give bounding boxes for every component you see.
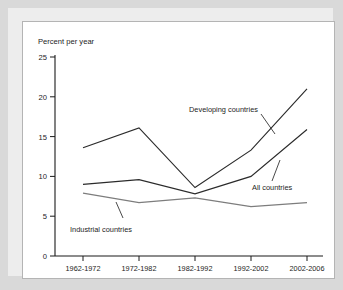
y-tick-label-0: 0 (43, 252, 47, 261)
x-tick-label-3: 1992-2002 (234, 264, 269, 273)
y-axis-title: Percent per year (38, 37, 95, 46)
y-tick-label-25: 25 (39, 53, 47, 62)
chart-panel: Percent per year 25 20 15 10 5 0 (22, 21, 335, 279)
y-tick-label-5: 5 (43, 212, 47, 221)
x-tick-label-2: 1982-1992 (178, 264, 213, 273)
annotation-all-countries: All countries (252, 183, 293, 192)
y-tick-label-20: 20 (39, 93, 47, 102)
leader-line-industrial (116, 202, 123, 218)
annotation-industrial-countries: Industrial countries (70, 225, 132, 234)
series-line-industrial (83, 193, 307, 207)
series-line-developing (83, 89, 307, 188)
line-chart: Percent per year 25 20 15 10 5 0 (23, 22, 334, 278)
x-tick-label-0: 1962-1972 (66, 264, 101, 273)
y-tick-label-15: 15 (39, 133, 47, 142)
leader-line-all-countries (272, 160, 280, 181)
y-tick-label-10: 10 (39, 172, 47, 181)
page-root: Percent per year 25 20 15 10 5 0 (0, 0, 343, 290)
outer-frame: Percent per year 25 20 15 10 5 0 (8, 8, 333, 276)
x-tick-label-1: 1972-1982 (122, 264, 157, 273)
x-tick-label-4: 2002-2006 (290, 264, 325, 273)
annotation-developing-countries: Developing countries (189, 105, 258, 114)
